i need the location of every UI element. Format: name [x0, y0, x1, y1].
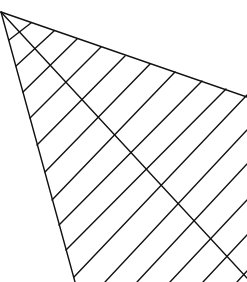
hatch-line [59, 81, 202, 225]
hatch-line [23, 39, 77, 92]
hatch-line [16, 31, 54, 66]
hatch-line [203, 235, 247, 282]
hatch-line [170, 200, 247, 282]
hatch-line [9, 23, 31, 40]
hatched-triangle-diagram [0, 0, 247, 282]
triangle-top-edge [1, 12, 247, 97]
hatch-line [66, 89, 226, 250]
hatch-line [137, 164, 247, 282]
hatch-line [30, 47, 101, 118]
hatch-lines [9, 23, 247, 282]
hatch-line [105, 130, 247, 282]
diagram-canvas [0, 0, 247, 282]
